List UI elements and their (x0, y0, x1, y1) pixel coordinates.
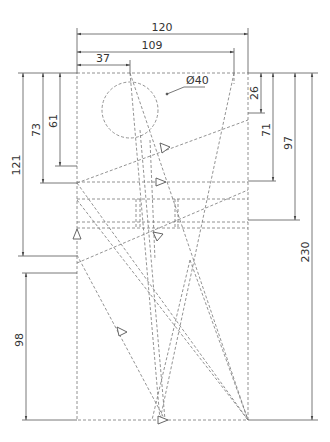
triangle-icon (117, 327, 127, 336)
dim-61: 61 (47, 114, 60, 128)
dim-97: 97 (282, 136, 295, 150)
flow-arrow-icons (73, 143, 170, 424)
dim-230: 230 (299, 242, 312, 263)
triangle-icon (73, 229, 81, 239)
dim-98: 98 (13, 333, 26, 347)
technical-drawing: 120 109 37 Ø40 121 73 61 98 26 71 97 230 (0, 0, 330, 442)
dim-71: 71 (260, 123, 273, 137)
dim-37: 37 (96, 52, 110, 65)
triangle-icon (160, 143, 170, 153)
dim-121: 121 (10, 155, 23, 176)
dim-120: 120 (152, 21, 173, 34)
dim-diameter: Ø40 (186, 74, 209, 87)
triangle-icon (158, 416, 168, 424)
dim-73: 73 (30, 123, 43, 137)
hole-circle (102, 82, 158, 138)
triangle-icon (153, 232, 163, 241)
dim-26: 26 (248, 86, 261, 100)
outline-box (77, 73, 248, 420)
dim-109: 109 (142, 39, 163, 52)
dimension-lines (18, 28, 318, 420)
triangle-icon (156, 178, 166, 186)
